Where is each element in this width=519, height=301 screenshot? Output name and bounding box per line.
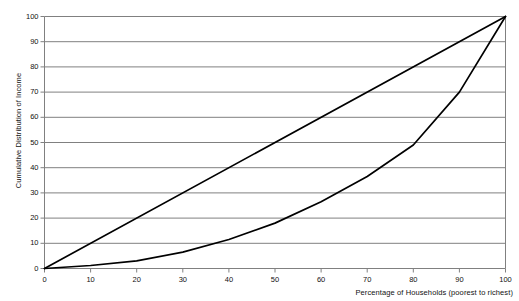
y-tick-label: 100 (9, 12, 39, 21)
plot-area (0, 0, 519, 301)
x-tick-label: 40 (214, 275, 244, 284)
y-tick-label: 30 (9, 188, 39, 197)
y-tick-label: 0 (9, 264, 39, 273)
y-tick-label: 20 (9, 213, 39, 222)
y-tick-label: 90 (9, 37, 39, 46)
y-tick-label: 50 (9, 138, 39, 147)
y-tick-label: 70 (9, 87, 39, 96)
lorenz-curve-chart: Cumulative Distribution of Income Percen… (0, 0, 519, 301)
x-tick-label: 50 (260, 275, 290, 284)
y-tick-label: 40 (9, 163, 39, 172)
y-tick-label: 10 (9, 238, 39, 247)
y-tick-label: 60 (9, 112, 39, 121)
x-tick-label: 80 (398, 275, 428, 284)
x-tick-label: 30 (168, 275, 198, 284)
x-tick-label: 90 (444, 275, 474, 284)
x-tick-label: 70 (352, 275, 382, 284)
y-tick-label: 80 (9, 62, 39, 71)
x-tick-label: 0 (30, 275, 60, 284)
x-tick-label: 100 (491, 275, 519, 284)
x-tick-label: 10 (76, 275, 106, 284)
x-tick-label: 20 (122, 275, 152, 284)
x-tick-label: 60 (306, 275, 336, 284)
